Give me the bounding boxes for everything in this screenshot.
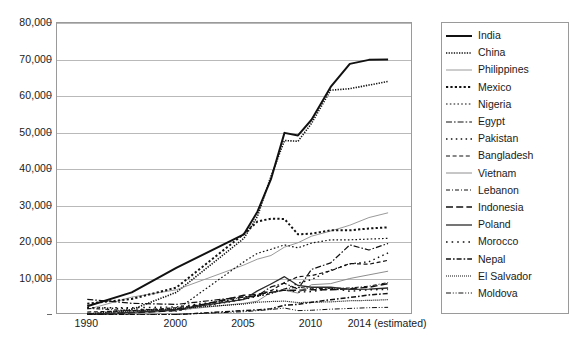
y-tick-label-80000: 80,000 [0, 16, 52, 28]
legend-item-mexico[interactable]: Mexico [442, 79, 568, 96]
series-line-nigeria [87, 238, 388, 314]
series-line-pakistan [87, 253, 388, 311]
legend-swatch-el-salvador-icon [446, 271, 472, 281]
x-tick-label-2000: 2000 [164, 317, 187, 329]
y-tick-mark-20000 [47, 241, 52, 242]
y-tick-label-60000: 60,000 [0, 89, 52, 101]
legend-label: Nigeria [478, 99, 511, 110]
legend-label: Philippines [478, 64, 529, 75]
plot-frame [56, 22, 412, 314]
y-tick-label-20000: 20,000 [0, 235, 52, 247]
series-line-philippines [87, 213, 388, 310]
legend-label: Morocco [478, 236, 518, 247]
legend-item-indonesia[interactable]: Indonesia [442, 199, 568, 216]
y-tick-label-10000: 10,000 [0, 272, 52, 284]
legend-item-india[interactable]: India [442, 27, 568, 44]
legend-item-pakistan[interactable]: Pakistan [442, 130, 568, 147]
y-tick-label-70000: 70,000 [0, 53, 52, 65]
x-tick-label-2010: 2010 [299, 317, 322, 329]
legend-item-el-salvador[interactable]: El Salvador [442, 268, 568, 285]
y-tick-mark-0 [47, 314, 52, 315]
legend-swatch-nigeria-icon [446, 99, 472, 109]
y-axis: 80,00070,00060,00050,00040,00030,00020,0… [0, 22, 52, 314]
y-tick-mark-80000 [47, 22, 52, 23]
remittances-line-chart-figure: 80,00070,00060,00050,00040,00030,00020,0… [0, 0, 572, 357]
x-tick-label-2005: 2005 [231, 317, 254, 329]
legend-label: Vietnam [478, 168, 516, 179]
legend-label: Poland [478, 219, 511, 230]
legend-item-bangladesh[interactable]: Bangladesh [442, 147, 568, 164]
legend-swatch-moldova-icon [446, 288, 472, 298]
legend-swatch-philippines-icon [446, 65, 472, 75]
series-line-egypt [87, 243, 388, 304]
legend-swatch-pakistan-icon [446, 134, 472, 144]
x-axis: 19902000200520102014 (estimated) [56, 316, 412, 336]
y-tick-mark-30000 [47, 205, 52, 206]
legend-label: Pakistan [478, 133, 518, 144]
plot-area [57, 23, 411, 313]
y-tick-mark-40000 [47, 168, 52, 169]
y-tick-mark-10000 [47, 278, 52, 279]
chart-legend: IndiaChinaPhilippinesMexicoNigeriaEgyptP… [441, 22, 569, 314]
y-tick-label-50000: 50,000 [0, 126, 52, 138]
legend-item-nepal[interactable]: Nepal [442, 250, 568, 267]
legend-item-moldova[interactable]: Moldova [442, 285, 568, 302]
y-tick-label-30000: 30,000 [0, 199, 52, 211]
series-lines [57, 23, 413, 315]
y-tick-mark-50000 [47, 132, 52, 133]
legend-swatch-mexico-icon [446, 82, 472, 92]
legend-label: El Salvador [478, 271, 532, 282]
legend-swatch-bangladesh-icon [446, 151, 472, 161]
legend-label: Indonesia [478, 202, 524, 213]
legend-item-poland[interactable]: Poland [442, 216, 568, 233]
y-tick-mark-60000 [47, 95, 52, 96]
series-line-china [87, 81, 388, 314]
y-tick-mark-70000 [47, 59, 52, 60]
legend-label: Moldova [478, 288, 518, 299]
legend-swatch-nepal-icon [446, 254, 472, 264]
legend-item-egypt[interactable]: Egypt [442, 113, 568, 130]
legend-swatch-indonesia-icon [446, 202, 472, 212]
legend-label: India [478, 30, 501, 41]
legend-label: Nepal [478, 254, 505, 265]
legend-item-vietnam[interactable]: Vietnam [442, 165, 568, 182]
legend-swatch-lebanon-icon [446, 185, 472, 195]
legend-swatch-vietnam-icon [446, 168, 472, 178]
legend-label: Lebanon [478, 185, 519, 196]
legend-label: China [478, 47, 505, 58]
legend-label: Bangladesh [478, 150, 533, 161]
series-line-india [87, 60, 388, 307]
legend-swatch-china-icon [446, 48, 472, 58]
x-tick-label-1990: 1990 [75, 317, 98, 329]
legend-swatch-poland-icon [446, 220, 472, 230]
legend-label: Egypt [478, 116, 505, 127]
legend-item-lebanon[interactable]: Lebanon [442, 182, 568, 199]
legend-item-philippines[interactable]: Philippines [442, 61, 568, 78]
legend-swatch-india-icon [446, 31, 472, 41]
legend-swatch-morocco-icon [446, 237, 472, 247]
y-tick-label-40000: 40,000 [0, 162, 52, 174]
legend-item-china[interactable]: China [442, 44, 568, 61]
x-tick-label-2014: 2014 (estimated) [348, 317, 427, 329]
legend-item-nigeria[interactable]: Nigeria [442, 96, 568, 113]
legend-swatch-egypt-icon [446, 117, 472, 127]
legend-label: Mexico [478, 82, 511, 93]
legend-item-morocco[interactable]: Morocco [442, 233, 568, 250]
